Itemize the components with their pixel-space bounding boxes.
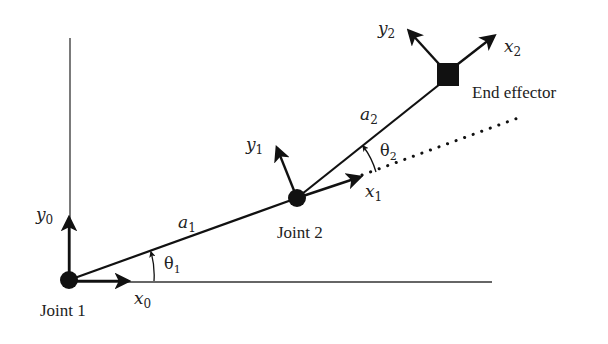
joint-2-dot xyxy=(288,189,306,207)
frame2-y-arrow xyxy=(409,31,439,64)
joint-1-dot xyxy=(60,271,78,289)
frame2-x-arrow xyxy=(458,36,494,64)
frame1-x-label: x1 xyxy=(365,181,382,204)
frame1-y-label: y1 xyxy=(245,134,263,157)
end-effector-label: End effector xyxy=(472,83,557,102)
manipulator-diagram: y0 x0 Joint 1 a1 θ1 y1 x1 Joint 2 a2 θ2 … xyxy=(0,0,608,344)
link-2-label: a2 xyxy=(360,104,378,127)
frame1-x-arrow xyxy=(297,177,360,198)
frame0-x-label: x0 xyxy=(134,288,151,311)
joint-1-label: Joint 1 xyxy=(40,301,86,320)
end-effector-square xyxy=(437,63,459,86)
joint-2-label: Joint 2 xyxy=(277,223,323,242)
frame0-y-label: y0 xyxy=(35,204,53,227)
frame2-y-label: y2 xyxy=(377,18,395,41)
frame2-x-label: x2 xyxy=(504,36,521,59)
theta2-arc xyxy=(363,146,376,172)
diagram-svg: y0 x0 Joint 1 a1 θ1 y1 x1 Joint 2 a2 θ2 … xyxy=(0,0,608,344)
link-1-label: a1 xyxy=(178,212,196,235)
theta2-label: θ2 xyxy=(380,141,397,163)
link-1 xyxy=(69,198,297,280)
theta1-label: θ1 xyxy=(164,254,181,276)
theta1-arc xyxy=(151,252,154,281)
